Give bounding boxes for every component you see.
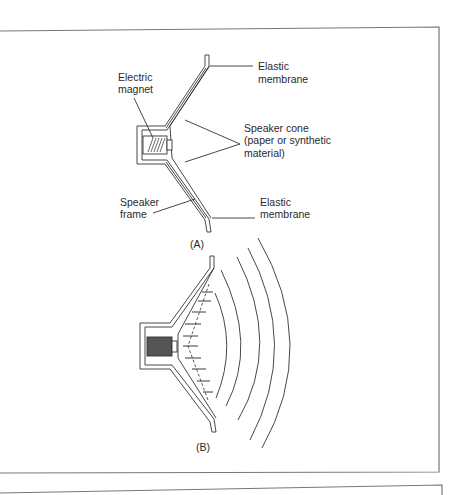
next-figure-frame xyxy=(0,485,442,495)
speaker-diagram: Electric magnet Elastic membrane Speaker… xyxy=(0,0,463,495)
label-elastic-membrane-bottom-2: membrane xyxy=(260,208,310,220)
caption-a: (A) xyxy=(190,238,204,250)
label-electric-magnet-2: magnet xyxy=(118,83,153,95)
caption-b: (B) xyxy=(196,441,210,453)
label-elastic-membrane-bottom: Elastic xyxy=(260,196,291,208)
label-speaker-cone-3: material) xyxy=(244,147,285,159)
label-elastic-membrane-top: Elastic xyxy=(258,60,289,72)
coil-icon xyxy=(143,136,167,154)
label-elastic-membrane-top-2: membrane xyxy=(258,73,308,85)
label-speaker-cone: Speaker cone xyxy=(244,122,309,134)
coil-icon xyxy=(147,337,172,356)
figure-frame xyxy=(0,27,439,473)
label-electric-magnet: Electric xyxy=(118,71,152,83)
label-speaker-frame: Speaker xyxy=(120,196,160,208)
label-speaker-cone-2: (paper or synthetic xyxy=(244,134,331,146)
speaker-b xyxy=(140,238,290,448)
label-speaker-frame-2: frame xyxy=(120,208,147,220)
